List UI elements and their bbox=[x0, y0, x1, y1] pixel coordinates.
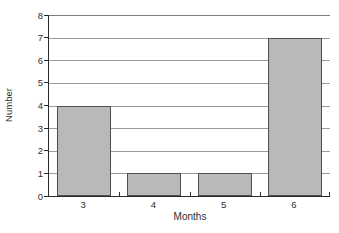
y-tick bbox=[44, 60, 48, 61]
x-tick-label: 6 bbox=[274, 199, 314, 210]
bar bbox=[127, 173, 181, 196]
x-tick-label: 4 bbox=[133, 199, 173, 210]
y-tick-label: 7 bbox=[17, 32, 43, 43]
plot-area bbox=[48, 15, 330, 197]
bar-chart: Number 0123456783456 Months bbox=[0, 0, 339, 233]
y-tick-label: 8 bbox=[17, 10, 43, 21]
y-tick bbox=[44, 173, 48, 174]
x-tick-label: 3 bbox=[63, 199, 103, 210]
x-tick bbox=[190, 192, 191, 196]
bar bbox=[198, 173, 252, 196]
y-tick-label: 5 bbox=[17, 77, 43, 88]
bar bbox=[57, 106, 111, 197]
x-tick bbox=[119, 192, 120, 196]
y-tick bbox=[44, 82, 48, 83]
y-tick-label: 1 bbox=[17, 168, 43, 179]
y-tick bbox=[44, 196, 48, 197]
gridline bbox=[49, 15, 330, 16]
y-tick-label: 6 bbox=[17, 55, 43, 66]
y-tick bbox=[44, 150, 48, 151]
x-tick bbox=[260, 192, 261, 196]
x-tick bbox=[329, 192, 330, 196]
y-tick bbox=[44, 37, 48, 38]
y-tick-label: 3 bbox=[17, 123, 43, 134]
y-tick-label: 0 bbox=[17, 191, 43, 202]
y-tick-label: 4 bbox=[17, 100, 43, 111]
x-axis-title: Months bbox=[159, 211, 221, 222]
y-tick bbox=[44, 128, 48, 129]
y-tick bbox=[44, 15, 48, 16]
y-axis-title: Number bbox=[3, 74, 15, 136]
bar bbox=[268, 38, 322, 196]
bar-chart-figure: Number 0123456783456 Months bbox=[0, 0, 339, 233]
y-tick bbox=[44, 105, 48, 106]
y-tick-label: 2 bbox=[17, 145, 43, 156]
x-tick-label: 5 bbox=[204, 199, 244, 210]
